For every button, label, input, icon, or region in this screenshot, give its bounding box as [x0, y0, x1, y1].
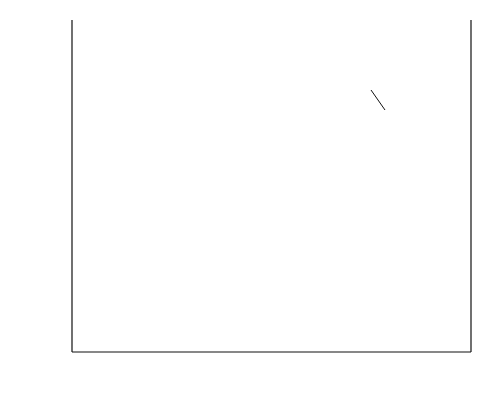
- total-waste-leader-line: [371, 90, 385, 110]
- chart-svg: [0, 0, 500, 409]
- waste-composition-chart: [0, 0, 500, 409]
